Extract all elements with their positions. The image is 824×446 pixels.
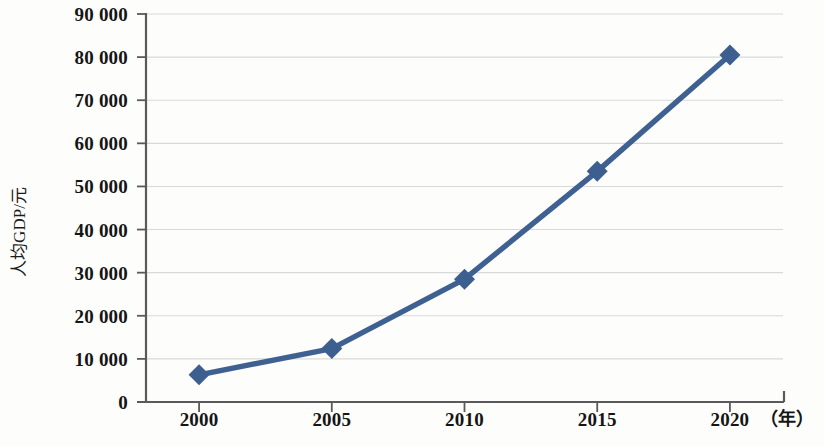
y-axis-tick-label: 20 000 (28, 307, 128, 326)
y-axis-tick-label: 0 (28, 393, 128, 412)
y-axis-tick-label: 50 000 (28, 177, 128, 196)
x-axis-tick-label: 2000 (139, 410, 259, 429)
x-axis-unit-label: （年） (760, 410, 814, 428)
y-axis-tick-label: 40 000 (28, 221, 128, 240)
x-axis-tick-label: 2015 (537, 410, 657, 429)
gridlines (146, 14, 783, 359)
series-line (199, 55, 730, 375)
y-axis-ticks (137, 14, 146, 402)
data-point-marker (321, 338, 342, 359)
x-axis-line (137, 391, 784, 402)
y-axis-tick-label: 90 000 (28, 5, 128, 24)
data-point-marker (189, 364, 210, 385)
y-axis-tick-label: 60 000 (28, 134, 128, 153)
y-axis-tick-label: 80 000 (28, 48, 128, 67)
x-axis-tick-label: 2005 (272, 410, 392, 429)
y-axis-tick-label: 70 000 (28, 91, 128, 110)
y-axis-tick-labels: 010 00020 00030 00040 00050 00060 00070 … (26, 0, 128, 446)
gdp-per-capita-line-chart: 人均GDP/元 010 00020 00030 00040 00050 0006… (0, 0, 824, 446)
y-axis-tick-label: 30 000 (28, 264, 128, 283)
data-point-markers (189, 44, 741, 385)
data-series-line (199, 55, 730, 375)
y-axis-tick-label: 10 000 (28, 350, 128, 369)
x-axis-tick-label: 2010 (405, 410, 525, 429)
